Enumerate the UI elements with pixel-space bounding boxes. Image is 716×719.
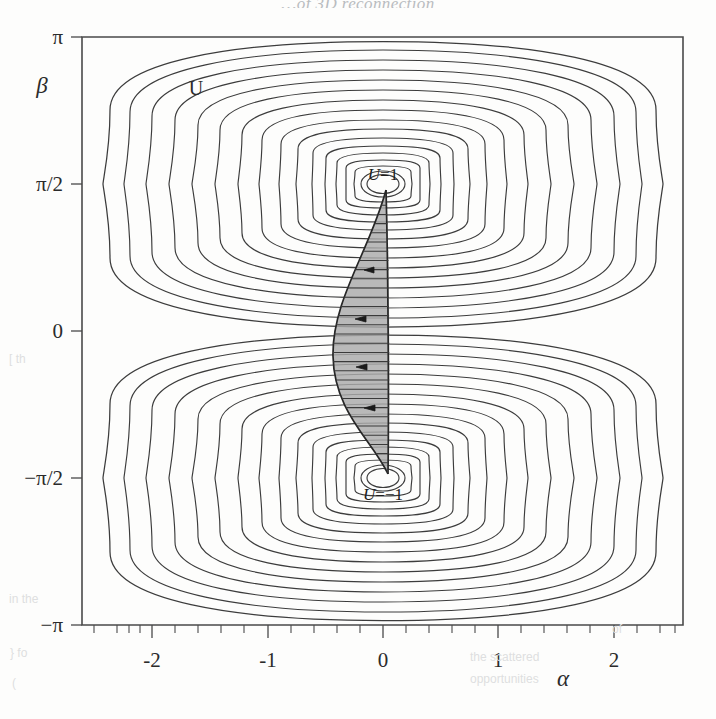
contour-field [103, 42, 663, 621]
figure-root: …of 3D reconnection [0, 0, 716, 719]
x-axis-tick-labels: -2 -1 0 1 2 [143, 648, 619, 672]
x-tick-label-1: -1 [259, 648, 277, 672]
x-tick-label-2: 0 [378, 648, 389, 672]
contour-plot: π π/2 0 −π/2 −π -2 -1 0 1 2 β α U U=1 U=… [0, 0, 716, 719]
y-tick-label-3: −π/2 [24, 466, 63, 490]
y-tick-label-2: 0 [53, 319, 64, 343]
y-axis-ticks [71, 37, 82, 625]
scan-bleed-text: in the [9, 592, 38, 606]
y-tick-label-4: −π [41, 613, 64, 637]
field-label-u: U [189, 77, 204, 99]
scan-bleed-text: } fo [10, 646, 27, 660]
scan-bleed-text: [ th [9, 352, 26, 366]
scan-bleed-text: opportunities [470, 672, 539, 686]
center-label-lower: U=−1 [363, 485, 403, 504]
y-axis-tick-labels: π π/2 0 −π/2 −π [24, 25, 63, 637]
x-axis-ticks [94, 625, 675, 638]
scan-bleed-text: of [612, 622, 622, 636]
x-axis-label: α [557, 666, 570, 691]
center-label-upper: U=1 [368, 165, 398, 184]
y-tick-label-1: π/2 [36, 172, 63, 196]
y-axis-label: β [35, 73, 48, 98]
x-tick-label-0: -2 [143, 648, 161, 672]
center-label-lower-value: =−1 [375, 485, 403, 504]
center-label-upper-value: =1 [380, 165, 398, 184]
y-tick-label-0: π [52, 25, 63, 49]
scan-bleed-text: the scattered [470, 650, 539, 664]
scan-bleed-text: ( [12, 676, 16, 690]
x-tick-label-4: 2 [609, 648, 620, 672]
